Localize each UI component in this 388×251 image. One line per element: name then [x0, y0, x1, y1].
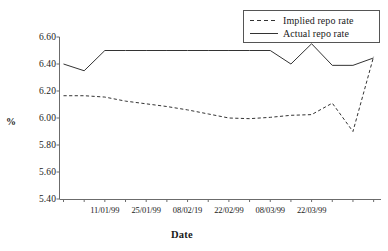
- x-axis-title: Date: [0, 229, 388, 240]
- series-line-actual-repo-rate: [64, 44, 374, 71]
- x-axis-tick-label: 22/03/99: [279, 205, 345, 215]
- chart-figure: Implied repo rate Actual repo rate 6.606…: [0, 0, 388, 251]
- axis-lines: [60, 37, 382, 200]
- x-axis-title-text: Date: [171, 229, 193, 240]
- series-line-implied-repo-rate: [64, 57, 374, 132]
- data-series: [64, 44, 374, 132]
